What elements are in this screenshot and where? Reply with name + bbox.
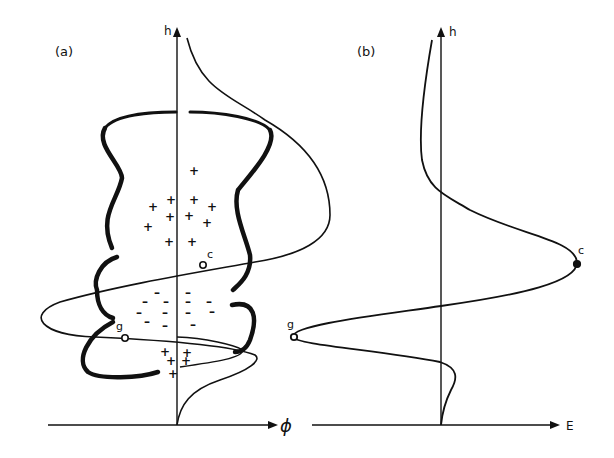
- panel-b: (b) h E c g: [287, 25, 584, 433]
- e-axis-label: E: [566, 419, 574, 433]
- svg-text:+: +: [207, 200, 217, 214]
- svg-text:+: +: [165, 210, 175, 224]
- point-c-label-b: c: [578, 244, 584, 257]
- point-c-b: [574, 261, 581, 268]
- positive-charges-lower: + + + + +: [160, 345, 192, 381]
- phi-axis-arrow-icon: [268, 421, 278, 429]
- svg-text:+: +: [166, 193, 176, 207]
- svg-text:–: –: [209, 305, 215, 319]
- e-axis-arrow-icon: [550, 421, 560, 429]
- svg-text:–: –: [154, 286, 160, 300]
- svg-text:–: –: [136, 306, 142, 320]
- point-g-label-b: g: [287, 318, 294, 331]
- figure: (a) h ϕ c g: [0, 0, 614, 458]
- point-g-label-a: g: [116, 320, 123, 333]
- panel-a-label: (a): [55, 44, 73, 59]
- svg-text:–: –: [144, 315, 150, 329]
- panel-a: (a) h ϕ c g: [41, 24, 330, 436]
- svg-text:+: +: [189, 193, 199, 207]
- negative-charges: – – – – – – – – – – – – –: [136, 286, 215, 333]
- svg-text:+: +: [187, 235, 197, 249]
- svg-text:+: +: [168, 367, 178, 381]
- point-c-a: [200, 262, 206, 268]
- point-c-label-a: c: [207, 248, 213, 261]
- svg-text:+: +: [148, 200, 158, 214]
- svg-text:+: +: [166, 354, 176, 368]
- svg-text:–: –: [162, 306, 168, 320]
- svg-text:+: +: [143, 220, 153, 234]
- panel-b-label: (b): [357, 44, 375, 59]
- point-g-b: [291, 334, 297, 340]
- svg-text:+: +: [189, 164, 199, 178]
- point-g-a: [122, 335, 128, 341]
- h-axis-arrow-icon: [173, 27, 181, 37]
- field-curve: [293, 40, 577, 425]
- svg-text:+: +: [164, 235, 174, 249]
- svg-text:–: –: [190, 318, 196, 332]
- svg-text:+: +: [184, 209, 194, 223]
- svg-text:+: +: [202, 216, 212, 230]
- h-axis-arrow-icon: [437, 27, 445, 37]
- svg-text:–: –: [162, 319, 168, 333]
- svg-text:–: –: [142, 295, 148, 309]
- phi-axis-label: ϕ: [280, 415, 292, 436]
- svg-text:+: +: [181, 354, 191, 368]
- h-axis-label-b: h: [449, 25, 457, 39]
- h-axis-label-a: h: [164, 24, 172, 38]
- positive-charges-upper: + + + + + + + + + + +: [143, 164, 217, 249]
